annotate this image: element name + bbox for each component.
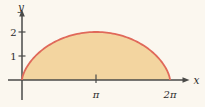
x-axis-label: x xyxy=(194,74,200,86)
cycloid-area-figure: 2 1 π 2π y x xyxy=(0,0,205,107)
y-tick-label-1: 1 xyxy=(10,51,16,62)
y-tick-label-2: 2 xyxy=(10,27,16,38)
x-tick-label-pi: π xyxy=(92,89,100,100)
y-axis-label: y xyxy=(17,1,25,13)
x-tick-label-2pi: 2π xyxy=(163,89,177,100)
plot-canvas: 2 1 π 2π y x xyxy=(0,0,205,107)
